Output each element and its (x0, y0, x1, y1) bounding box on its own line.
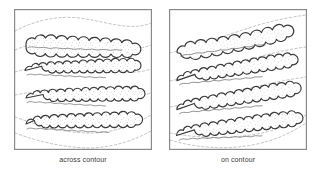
caption-across-contour: across contour (22, 155, 143, 165)
panel-on-contour (169, 9, 307, 150)
panel-across-contour (14, 9, 152, 150)
across-contour-drawing (14, 9, 152, 150)
caption-on-contour: on contour (177, 155, 298, 165)
figure-canvas: across contour (0, 0, 321, 185)
on-contour-drawing (169, 9, 307, 150)
